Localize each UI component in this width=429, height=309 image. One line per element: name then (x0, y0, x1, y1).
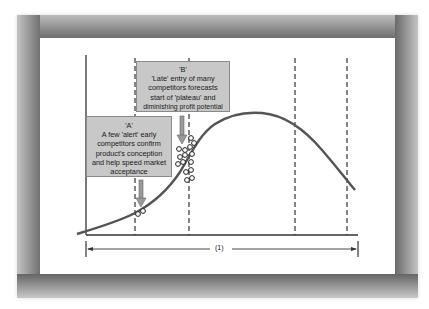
callout-a-line: A few 'alert' early (87, 130, 171, 139)
callout-a-title: 'A' (87, 121, 171, 130)
callout-b-line: start of 'plateau' and (137, 93, 229, 102)
callout-a: 'A' A few 'alert' early competitors conf… (86, 116, 172, 177)
callout-a-line: competitors confirm (87, 139, 171, 148)
callout-a-line: acceptance (87, 167, 171, 176)
arrowhead-left-icon (87, 247, 93, 251)
life-cycle-diagram (0, 0, 429, 309)
dimension-label: (1) (212, 244, 227, 251)
callout-b-line: diminishing profit potential (137, 102, 229, 111)
callout-b: 'B' 'Late' entry of many competitors for… (136, 61, 230, 112)
callout-b-line: 'Late' entry of many (137, 74, 229, 83)
callout-b-line: competitors forecasts (137, 83, 229, 92)
arrowhead-right-icon (351, 247, 357, 251)
arrow-down-icon-b (177, 116, 187, 144)
competitor-circles-a (136, 209, 146, 217)
callout-b-title: 'B' (137, 65, 229, 74)
callout-a-line: and help speed market (87, 158, 171, 167)
callout-a-line: product's conception (87, 149, 171, 158)
arrow-down-icon-a (136, 180, 146, 207)
